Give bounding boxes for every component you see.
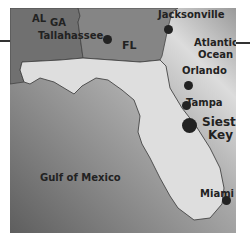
city-label-siesta-key-line1: Siesta (202, 116, 236, 128)
city-label-siesta-key-line2: Key (208, 129, 233, 141)
city-dot-tallahassee (103, 35, 112, 44)
city-dot-jacksonville (164, 25, 173, 34)
state-label-al: AL (32, 14, 46, 24)
right-horizontal-rule (234, 42, 250, 44)
state-label-ga: GA (50, 18, 66, 28)
city-label-orlando: Orlando (182, 66, 227, 76)
water-label-atlantic-line2: Ocean (198, 50, 233, 60)
city-label-tampa: Tampa (186, 98, 223, 108)
water-label-atlantic-line1: Atlantic (194, 38, 236, 48)
city-dot-siesta-key (182, 118, 197, 133)
city-dot-tampa (182, 101, 191, 110)
city-label-jacksonville: Jacksonville (158, 10, 225, 20)
city-label-tallahassee: Tallahassee (38, 31, 103, 41)
city-dot-orlando (184, 81, 193, 90)
water-label-gulf-of-mexico: Gulf of Mexico (40, 173, 121, 183)
state-label-fl: FL (122, 40, 137, 51)
florida-map: AL GA FL Tallahassee Jacksonville Atlant… (10, 8, 236, 233)
city-dot-miami (222, 196, 231, 205)
